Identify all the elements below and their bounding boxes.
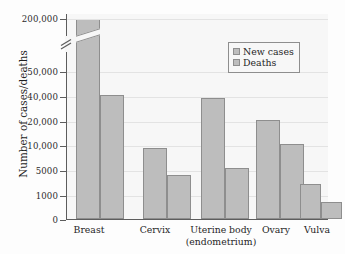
bar-ovary-new-cases [256, 120, 280, 219]
bar-cervix-new-cases [143, 148, 167, 219]
bar-breast-deaths [100, 95, 124, 219]
xtick-label-line2: (endometrium) [178, 236, 264, 248]
ytick-label: 1000 [36, 191, 58, 201]
xtick-label-breast: Breast [56, 224, 122, 236]
xtick-label-line1: Cervix [140, 224, 171, 235]
ytick-label: 20,000 [27, 117, 58, 127]
ytick-mark [60, 196, 66, 197]
ytick-mark [60, 97, 66, 98]
bar-uterine-new-cases [201, 98, 225, 219]
bar-vulva-new-cases [300, 184, 321, 219]
ytick-label: 5000 [36, 166, 58, 176]
bar-chart: 200,000 50,000 40,000 20,000 10,000 5000… [0, 0, 345, 254]
legend-label: New cases [243, 46, 294, 57]
ytick-label: 10,000 [27, 141, 58, 151]
bar-cervix-deaths [167, 175, 191, 219]
xtick-label-line1: Breast [74, 224, 105, 235]
legend-item-new-cases: New cases [233, 46, 294, 57]
xtick-label-line1: Vulva [304, 224, 330, 235]
gridline [67, 19, 328, 20]
xtick-label-line1: Ovary [262, 224, 290, 235]
ytick-label: 50,000 [27, 67, 58, 77]
ytick-mark [60, 19, 66, 20]
legend-item-deaths: Deaths [233, 57, 294, 68]
legend-swatch-icon [233, 48, 240, 55]
xtick-label-vulva: Vulva [290, 224, 344, 236]
legend-swatch-icon [233, 59, 240, 66]
legend: New cases Deaths [228, 42, 300, 73]
ytick-mark [60, 146, 66, 147]
ytick-mark [60, 171, 66, 172]
legend-label: Deaths [243, 57, 276, 68]
xtick-label-line1: Uterine body [190, 224, 252, 235]
bar-uterine-deaths [225, 168, 249, 219]
ytick-mark [60, 220, 66, 221]
ytick-label: 40,000 [27, 92, 58, 102]
ytick-mark [60, 72, 66, 73]
bar-vulva-deaths [321, 202, 342, 219]
bar-breast-new-cases [76, 20, 100, 219]
axis-break-icon [60, 36, 72, 52]
ytick-mark [60, 122, 66, 123]
y-axis-title: Number of cases/deaths [17, 19, 29, 209]
